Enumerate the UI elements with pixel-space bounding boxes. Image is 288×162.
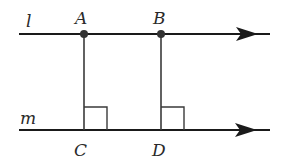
point-b-dot [157,30,165,38]
point-d-label: D [151,140,166,160]
line-m-label: m [20,108,36,128]
line-l [19,27,270,41]
point-a-label: A [73,8,87,28]
point-c-label: C [74,140,87,160]
parallel-lines-diagram: l m A B C D [0,0,288,162]
point-a-dot [80,30,88,38]
line-l-label: l [26,11,31,31]
line-m [19,123,270,137]
point-b-label: B [152,8,166,28]
right-angle-mark-d [161,107,184,130]
right-angle-mark-c [84,107,107,130]
